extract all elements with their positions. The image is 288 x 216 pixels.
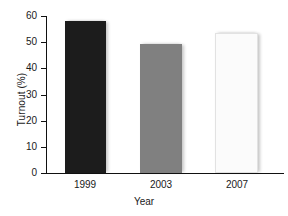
y-tick-label-0: 0 xyxy=(13,168,37,178)
y-tick-label-30: 30 xyxy=(13,90,37,100)
bar-2003[interactable] xyxy=(140,44,182,174)
x-axis-label: Year xyxy=(0,196,288,207)
bar-chart: Turnout (%) 60 50 40 30 20 10 0 1999 200… xyxy=(0,0,288,216)
y-tick-label-50: 50 xyxy=(13,37,37,47)
x-tick-label-2003: 2003 xyxy=(131,179,191,190)
bar-1999[interactable] xyxy=(65,21,106,173)
y-tick-label-10: 10 xyxy=(13,142,37,152)
y-tick-mark-0 xyxy=(41,173,46,174)
y-tick-label-20: 20 xyxy=(13,116,37,126)
plot-area xyxy=(46,16,278,173)
y-tick-label-60: 60 xyxy=(13,11,37,21)
y-tick-label-40: 40 xyxy=(13,63,37,73)
x-tick-label-2007: 2007 xyxy=(207,179,267,190)
x-axis-line xyxy=(46,173,284,174)
bar-2007[interactable] xyxy=(215,33,258,173)
x-tick-label-1999: 1999 xyxy=(55,179,115,190)
